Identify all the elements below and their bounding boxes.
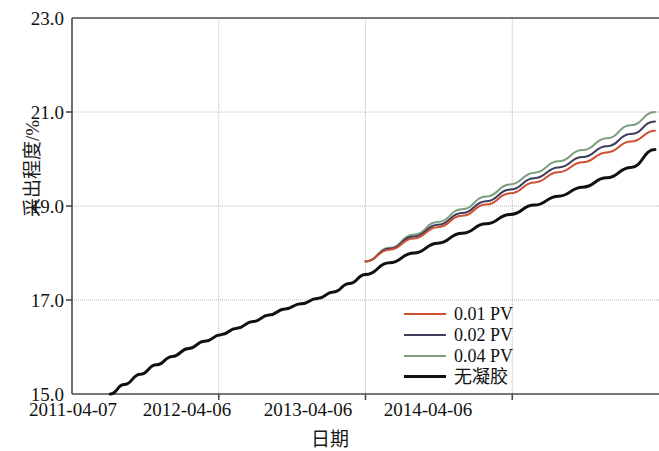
legend-color-swatch xyxy=(404,334,446,336)
series-line xyxy=(110,150,655,394)
legend-item-label: 0.01 PV xyxy=(454,305,513,323)
legend-color-swatch xyxy=(404,355,446,357)
legend-item: 0.02 PV xyxy=(404,324,564,345)
legend-color-swatch xyxy=(404,375,446,378)
legend-item-label: 0.02 PV xyxy=(454,326,513,344)
legend-color-swatch xyxy=(404,313,446,315)
legend-item: 0.01 PV xyxy=(404,303,564,324)
legend-item: 无凝胶 xyxy=(404,366,564,387)
series-line xyxy=(366,121,655,261)
legend-item-label: 无凝胶 xyxy=(454,368,508,386)
chart-figure: 采出程度/% 23.0 21.0 19.0 17.0 15.0 2011-04-… xyxy=(0,0,659,451)
legend-item-label: 0.04 PV xyxy=(454,347,513,365)
chart-legend: 0.01 PV 0.02 PV 0.04 PV 无凝胶 xyxy=(404,303,564,387)
series-line xyxy=(366,131,655,262)
legend-item: 0.04 PV xyxy=(404,345,564,366)
